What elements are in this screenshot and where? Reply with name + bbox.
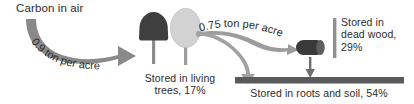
log-icon bbox=[296, 40, 325, 55]
tree-icon-dark bbox=[139, 12, 168, 64]
flow-label-0-9: 0.9 ton per acre bbox=[29, 36, 100, 72]
living-trees-line1: Stored in living bbox=[145, 72, 216, 84]
dead-wood-line3: 29% bbox=[341, 41, 362, 53]
dead-wood-line2: dead wood, bbox=[341, 28, 396, 40]
store-label-living-trees: Stored in living trees, 17% bbox=[128, 72, 232, 97]
living-trees-line2: trees, 17% bbox=[154, 84, 205, 96]
soil-bar-icon bbox=[235, 77, 404, 84]
tree-icon-light bbox=[171, 9, 201, 66]
store-label-dead-wood: Stored in dead wood, 29% bbox=[341, 16, 414, 53]
dead-wood-line1: Stored in bbox=[341, 16, 384, 28]
source-label-carbon-in-air: Carbon in air bbox=[16, 2, 83, 16]
carbon-storage-diagram: 0.9 ton per acre 0.75 ton per acre Carbo… bbox=[0, 0, 414, 104]
store-label-roots-and-soil: Stored in roots and soil, 54% bbox=[226, 87, 412, 99]
flow-arrow-deadwood-to-soil bbox=[306, 57, 316, 78]
dead-wood-divider-bar bbox=[333, 18, 336, 58]
